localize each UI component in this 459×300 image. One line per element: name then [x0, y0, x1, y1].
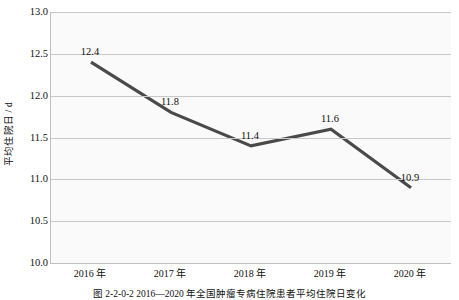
data-point-label: 12.4: [81, 46, 99, 57]
figure-caption: 图 2-2-0-2 2016—2020 年全国肿瘤专病住院患者平均住院日变化: [0, 288, 459, 300]
y-axis-tick-label: 10.0: [14, 258, 48, 268]
gridline: [51, 96, 451, 97]
data-point-label: 11.4: [241, 130, 259, 141]
gridline: [51, 12, 451, 13]
x-axis-tick-label: 2016 年: [74, 268, 107, 279]
gridline: [51, 221, 451, 222]
y-axis-tick-label: 10.5: [14, 216, 48, 226]
data-point-label: 11.8: [161, 96, 179, 107]
y-axis-tick-label: 12.5: [14, 49, 48, 59]
y-axis-tick-label: 11.5: [14, 133, 48, 143]
x-axis-tick-label: 2020 年: [394, 268, 427, 279]
y-axis-tick-label: 12.0: [14, 91, 48, 101]
data-point-label: 11.6: [321, 113, 339, 124]
series-line: [91, 62, 411, 188]
gridline: [51, 179, 451, 180]
y-axis-tick-label: 11.0: [14, 174, 48, 184]
y-axis-tick-label: 13.0: [14, 7, 48, 17]
x-axis-tick-label: 2017 年: [154, 268, 187, 279]
gridline: [51, 54, 451, 55]
y-axis-tick-labels: 13.012.512.011.511.010.510.0: [8, 0, 48, 298]
x-axis-tick-label: 2019 年: [314, 268, 347, 279]
data-point-label: 10.9: [401, 172, 419, 183]
x-axis-tick-label: 2018 年: [234, 268, 267, 279]
